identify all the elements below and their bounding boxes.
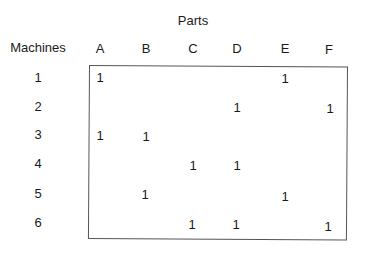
matrix-cell-6-c: 1 [188,218,195,231]
matrix-border [88,65,348,241]
matrix-cell-4-c: 1 [189,159,196,172]
column-label-a: A [96,42,105,55]
column-label-f: F [325,43,333,56]
row-label-4: 4 [34,157,41,170]
parts-axis-title: Parts [178,14,208,27]
row-label-5: 5 [34,187,41,200]
matrix-cell-3-a: 1 [96,129,103,142]
matrix-cell-6-f: 1 [324,220,331,233]
machines-axis-title: Machines [10,41,66,54]
matrix-cell-5-b: 1 [141,188,148,201]
matrix-cell-5-e: 1 [281,190,288,203]
column-label-e: E [281,42,290,55]
matrix-cell-4-d: 1 [233,159,240,172]
matrix-cell-1-e: 1 [281,72,288,85]
column-label-d: D [232,42,241,55]
matrix-cell-3-b: 1 [142,130,149,143]
row-label-2: 2 [34,100,41,113]
matrix-cell-1-a: 1 [96,71,103,84]
column-label-c: C [188,42,197,55]
matrix-cell-6-d: 1 [232,218,239,231]
row-label-1: 1 [34,71,41,84]
matrix-cell-2-f: 1 [326,102,333,115]
row-label-3: 3 [34,128,41,141]
column-label-b: B [142,42,151,55]
row-label-6: 6 [34,216,41,229]
matrix-cell-2-d: 1 [233,101,240,114]
